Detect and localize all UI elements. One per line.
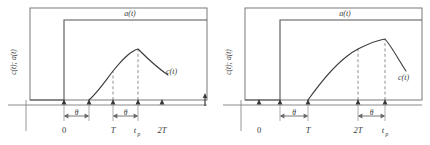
chart-svg-right: θ θ 0 T 2T t p a(t) c(t) c(t); a(t) [215,0,430,145]
right-edge-arrow [203,93,207,106]
series-input-step [30,20,207,100]
output-label: c(t) [398,73,409,82]
tick-label-2T: 2T [158,125,168,135]
tick-label-T: T [111,125,117,135]
plot-frame [30,8,207,100]
tick-label-tp-sub: p [385,131,389,137]
tick-label-0: 0 [62,125,66,135]
tick-label-tp-base: t [134,125,137,135]
series-input-step [245,20,422,100]
series-response-curve [89,49,168,100]
theta-label-2: θ [370,108,374,117]
tick-label-T: T [306,125,312,135]
tick-label-tp: t p [134,125,141,137]
output-label: c(t) [166,67,177,76]
series-response-curve [308,39,406,100]
y-axis-label: c(t); a(t) [224,49,233,75]
tick-label-tp-sub: p [137,131,141,137]
input-label: a(t) [124,9,136,18]
theta-label-1: θ [75,108,79,117]
input-label: a(t) [339,9,351,18]
chart-panel-left: θ θ 0 T t p 2T a(t) c(t) c(t); a(t) [0,0,215,145]
theta-label-1: θ [292,108,296,117]
figure-root: θ θ 0 T t p 2T a(t) c(t) c(t); a(t) [0,0,430,145]
theta-label-2: θ [124,108,128,117]
chart-panel-right: θ θ 0 T 2T t p a(t) c(t) c(t); a(t) [215,0,430,145]
tick-label-tp-base: t [382,125,385,135]
tick-label-2T: 2T [354,125,364,135]
y-axis-label: c(t); a(t) [9,49,18,75]
tick-label-0: 0 [257,125,261,135]
chart-svg-left: θ θ 0 T t p 2T a(t) c(t) c(t); a(t) [0,0,215,145]
tick-label-tp: t p [382,125,389,137]
